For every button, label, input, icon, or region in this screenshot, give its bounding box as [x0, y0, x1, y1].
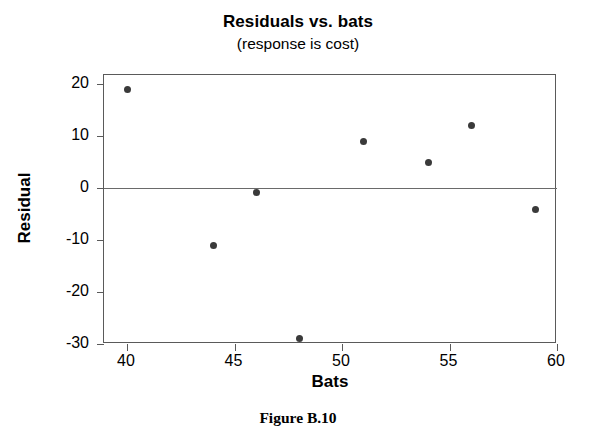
data-point: [124, 86, 131, 93]
y-axis-tick-label: 0: [0, 179, 89, 195]
y-axis-tick: [97, 292, 104, 293]
y-axis-tick: [97, 344, 104, 345]
y-axis-tick-label: 20: [0, 75, 89, 91]
data-point: [210, 242, 217, 249]
y-axis-tick-label: -30: [0, 335, 89, 351]
y-axis-tick: [97, 84, 104, 85]
y-axis-tick-label: 10: [0, 127, 89, 143]
data-point: [360, 138, 367, 145]
y-axis-tick-label: -20: [0, 283, 89, 299]
plot-area: [103, 74, 556, 343]
x-axis-tick: [557, 344, 558, 351]
x-axis-tick: [450, 344, 451, 351]
data-point: [468, 122, 475, 129]
data-point: [532, 206, 539, 213]
x-axis-label: Bats: [103, 372, 557, 392]
x-axis-tick-label: 60: [526, 353, 586, 369]
x-axis-tick: [127, 344, 128, 351]
data-point: [425, 159, 432, 166]
y-axis-tick: [97, 240, 104, 241]
figure-residuals-vs-bats: Residuals vs. bats (response is cost) Re…: [0, 0, 596, 438]
data-point: [253, 189, 260, 196]
y-axis-tick: [97, 188, 104, 189]
chart-subtitle: (response is cost): [0, 34, 596, 53]
figure-caption: Figure B.10: [0, 408, 596, 428]
y-axis-tick: [97, 136, 104, 137]
y-axis-label: Residual: [14, 128, 36, 288]
x-axis-tick-label: 50: [311, 353, 371, 369]
x-axis-tick-label: 40: [96, 353, 156, 369]
chart-title: Residuals vs. bats: [0, 12, 596, 32]
zero-reference-line: [104, 188, 557, 189]
y-axis-tick-label: -10: [0, 231, 89, 247]
x-axis-tick-label: 45: [204, 353, 264, 369]
x-axis-tick-label: 55: [419, 353, 479, 369]
data-point: [296, 335, 303, 342]
x-axis-tick: [342, 344, 343, 351]
x-axis-tick: [235, 344, 236, 351]
